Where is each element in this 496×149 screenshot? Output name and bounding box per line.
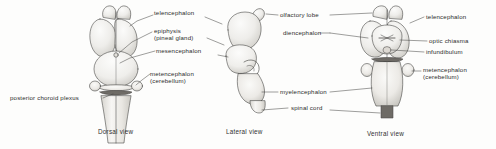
label-text: infundibulum [426, 48, 463, 55]
label-mesencephalon: mesencephalon [156, 47, 201, 55]
caption-dorsal-view: Dorsal view [98, 128, 133, 135]
caption-ventral-view: Ventral view [367, 130, 404, 137]
label-text: telencephalon [426, 13, 466, 20]
label-text: telencephalon [154, 9, 194, 16]
label-metencephalon-dorsal: metencephalon (cerebellum) [150, 70, 194, 85]
caption-lateral-view: Lateral view [226, 128, 263, 135]
label-posterior-choroid-plexus: posterior choroid plexus [10, 94, 79, 102]
caption-text: Lateral view [226, 128, 263, 135]
caption-text: Dorsal view [98, 128, 133, 135]
label-text: spinal cord [291, 104, 322, 111]
label-subtext: (cerebellum) [423, 73, 467, 80]
label-olfactory-lobe: olfactory lobe [280, 11, 319, 19]
label-myelencephalon: myelencephalon [280, 88, 327, 96]
label-text: myelencephalon [280, 88, 327, 95]
label-text: diencephalon [283, 29, 321, 36]
caption-text: Ventral view [367, 130, 404, 137]
label-text: epiphysis [154, 27, 193, 34]
label-diencephalon: diencephalon [283, 29, 321, 37]
label-text: posterior choroid plexus [10, 94, 79, 101]
label-text: olfactory lobe [280, 11, 319, 18]
label-text: mesencephalon [156, 47, 201, 54]
label-subtext: (pineal gland) [154, 34, 193, 41]
label-epiphysis: epiphysis (pineal gland) [154, 27, 193, 42]
lateral-view-art [226, 9, 265, 113]
label-infundibulum: infundibulum [426, 48, 463, 56]
label-telencephalon-ventral: telencephalon [426, 13, 466, 21]
brain-anatomy-figure: telencephalon epiphysis (pineal gland) m… [0, 0, 496, 149]
label-text: optic chiasma [429, 37, 469, 44]
label-optic-chiasma: optic chiasma [429, 37, 469, 45]
ventral-view-art [360, 6, 414, 118]
label-text: metencephalon [150, 70, 194, 77]
label-subtext: (cerebellum) [150, 77, 194, 84]
dorsal-view-art [90, 6, 143, 143]
label-spinal-cord: spinal cord [291, 104, 322, 112]
label-telencephalon-dorsal: telencephalon [154, 9, 194, 17]
label-text: metencephalon [423, 66, 467, 73]
label-metencephalon-ventral: metencephalon (cerebellum) [423, 66, 467, 81]
brain-illustrations [0, 0, 496, 149]
